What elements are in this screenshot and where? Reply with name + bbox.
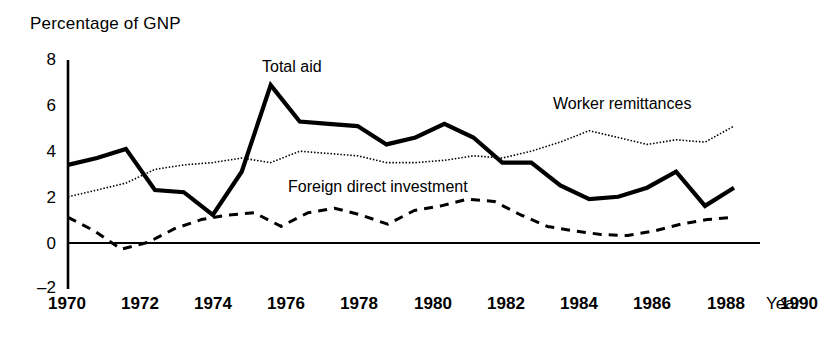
x-tick-1984: 1984 xyxy=(549,294,609,314)
series-label-total-aid: Total aid xyxy=(262,58,322,76)
x-tick-1980: 1980 xyxy=(403,294,463,314)
series-line-foreign-direct-investment xyxy=(68,199,734,249)
y-tick-2: 2 xyxy=(26,188,56,208)
chart-figure: Percentage of GNP 8 6 4 2 0 –2 1970 1972… xyxy=(0,0,822,341)
x-tick-1972: 1972 xyxy=(110,294,170,314)
x-tick-1982: 1982 xyxy=(476,294,536,314)
series-label-foreign-direct-investment: Foreign direct investment xyxy=(288,178,468,196)
x-tick-1974: 1974 xyxy=(183,294,243,314)
x-tick-1978: 1978 xyxy=(329,294,389,314)
y-tick-0: 0 xyxy=(26,234,56,254)
chart-canvas xyxy=(0,0,822,341)
x-tick-1970: 1970 xyxy=(37,294,97,314)
x-tick-1986: 1986 xyxy=(622,294,682,314)
x-tick-1976: 1976 xyxy=(256,294,316,314)
x-tick-1988: 1988 xyxy=(696,294,756,314)
series-label-worker-remittances: Worker remittances xyxy=(553,95,691,113)
y-tick-6: 6 xyxy=(26,96,56,116)
y-tick-8: 8 xyxy=(26,50,56,70)
y-tick-4: 4 xyxy=(26,142,56,162)
x-axis-unit-label: Year xyxy=(766,294,800,314)
